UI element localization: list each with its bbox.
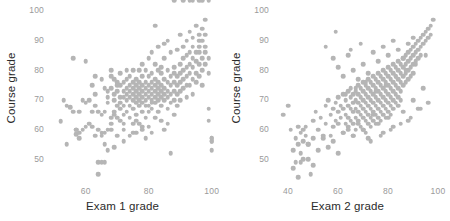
data-point xyxy=(77,136,82,141)
y-axis-title-exam1: Course grade xyxy=(2,0,20,175)
data-point xyxy=(121,127,126,132)
data-point xyxy=(368,124,373,129)
data-point xyxy=(165,121,170,126)
data-point xyxy=(286,104,291,109)
data-point xyxy=(194,23,199,28)
y-tick-label: 90 xyxy=(243,36,269,45)
data-point xyxy=(184,95,189,100)
data-point xyxy=(118,118,123,123)
data-point xyxy=(109,68,114,73)
data-point xyxy=(336,65,341,70)
data-point xyxy=(316,148,321,153)
data-point xyxy=(200,83,205,88)
x-axis-title-exam1: Exam 1 grade xyxy=(20,200,225,212)
y-tick-label: 70 xyxy=(243,95,269,104)
x-tick-label: 60 xyxy=(81,186,91,196)
data-point xyxy=(203,18,208,23)
data-point xyxy=(316,127,321,132)
data-point xyxy=(106,101,111,106)
data-point xyxy=(153,115,158,120)
data-point xyxy=(313,109,318,114)
data-point xyxy=(361,127,366,132)
data-point xyxy=(336,151,341,156)
data-point xyxy=(131,68,136,73)
data-point xyxy=(191,92,196,97)
data-point xyxy=(197,32,202,37)
data-point xyxy=(71,109,76,114)
data-point xyxy=(328,133,333,138)
data-point xyxy=(200,26,205,31)
data-point xyxy=(386,115,391,120)
data-point xyxy=(318,115,323,120)
data-point xyxy=(172,112,177,117)
data-point xyxy=(336,95,341,100)
data-point xyxy=(403,68,408,73)
y-axis-title-exam2: Course grade xyxy=(227,0,245,175)
data-point xyxy=(326,145,331,150)
x-axis-ticks-exam2: 406080100 xyxy=(225,186,450,198)
data-point xyxy=(168,151,173,156)
data-point xyxy=(206,107,211,112)
data-point xyxy=(115,133,120,138)
data-point xyxy=(197,74,202,79)
data-point xyxy=(338,115,343,120)
x-tick-label: 80 xyxy=(383,186,393,196)
data-point xyxy=(172,98,177,103)
data-point xyxy=(168,50,173,55)
data-point xyxy=(373,89,378,94)
data-point xyxy=(206,71,211,76)
data-point xyxy=(150,107,155,112)
data-point xyxy=(311,163,316,168)
data-point xyxy=(331,107,336,112)
data-point xyxy=(165,68,170,73)
data-point xyxy=(93,74,98,79)
data-point xyxy=(303,124,308,129)
data-point xyxy=(323,104,328,109)
data-point xyxy=(58,119,63,124)
data-point xyxy=(206,118,211,123)
data-point xyxy=(346,124,351,129)
data-point xyxy=(328,112,333,117)
y-tick-label: 80 xyxy=(243,66,269,75)
data-point xyxy=(93,104,98,109)
data-point xyxy=(331,56,336,61)
data-point xyxy=(181,44,186,49)
data-point xyxy=(93,133,98,138)
data-point xyxy=(124,68,129,73)
data-point xyxy=(401,56,406,61)
data-point xyxy=(418,53,423,58)
data-point xyxy=(131,107,136,112)
data-point xyxy=(298,151,303,156)
data-point xyxy=(187,0,192,2)
data-point xyxy=(90,109,95,114)
data-point xyxy=(346,53,351,58)
data-point xyxy=(124,109,129,114)
data-point xyxy=(121,104,126,109)
data-point xyxy=(428,23,433,28)
data-point xyxy=(197,0,202,2)
data-point xyxy=(74,127,79,132)
data-point xyxy=(99,77,104,82)
data-point xyxy=(172,0,177,2)
data-point xyxy=(200,38,205,43)
data-point xyxy=(187,71,192,76)
data-point xyxy=(150,50,155,55)
y-tick-label: 50 xyxy=(243,155,269,164)
panel-exam2: 5060708090100 406080100 Course grade Exa… xyxy=(225,0,450,221)
data-point xyxy=(102,142,107,147)
data-point xyxy=(351,68,356,73)
data-point xyxy=(398,121,403,126)
data-point xyxy=(421,86,426,91)
data-point xyxy=(187,50,192,55)
data-point xyxy=(109,121,114,126)
data-point xyxy=(184,38,189,43)
data-point xyxy=(140,62,145,67)
data-point xyxy=(336,109,341,114)
data-point xyxy=(203,44,208,49)
data-point xyxy=(197,50,202,55)
data-point xyxy=(112,112,117,117)
data-point xyxy=(398,98,403,103)
y-tick-label: 80 xyxy=(18,66,44,75)
data-point xyxy=(83,59,88,64)
data-point xyxy=(383,83,388,88)
